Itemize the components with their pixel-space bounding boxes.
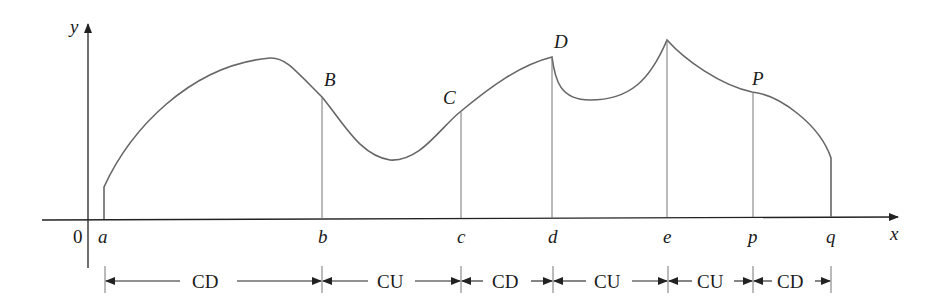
tick-d: d [548,226,558,247]
concavity-diagram: y x 0 B C D P a b c d e p q CD [0,0,937,307]
interval-markers: CD CU CD CU CU CD [105,266,831,293]
tick-e: e [663,226,671,247]
x-axis-label: x [889,223,899,244]
interval-label: CD [192,271,218,292]
point-P: P [751,68,764,89]
x-axis [42,217,898,220]
interval-label: CU [377,271,404,292]
point-B: B [324,69,336,90]
tick-p: p [746,226,758,247]
interval-label: CU [697,271,724,292]
tick-b: b [318,226,328,247]
point-C: C [443,87,456,108]
interval-label: CD [777,271,803,292]
tick-c: c [457,226,466,247]
y-axis-label: y [68,16,79,37]
tick-q: q [826,226,836,247]
interval-label: CD [492,271,518,292]
origin-label: 0 [73,226,83,247]
interval-label: CU [594,271,621,292]
function-curve [104,40,831,219]
tick-a: a [98,226,108,247]
point-D: D [553,31,568,52]
